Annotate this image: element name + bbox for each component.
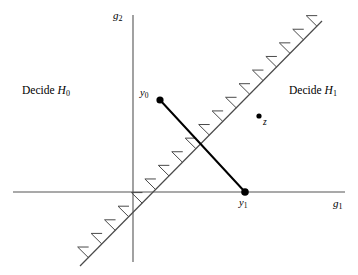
hatch-stroke <box>78 247 89 258</box>
hatch-stroke <box>293 29 304 40</box>
axes-group <box>13 15 345 262</box>
decide-h0-prefix: Decide <box>22 84 57 96</box>
decide-h0-subscript: 0 <box>66 89 70 98</box>
hatch-stroke <box>199 125 210 136</box>
hatch-stroke <box>118 206 129 217</box>
point-y0-subscript: 0 <box>145 91 149 100</box>
hatch-stroke <box>252 70 263 81</box>
hatch-stroke <box>172 152 183 163</box>
decision-boundary-group <box>78 16 322 266</box>
axis-g2-subscript: 2 <box>119 14 123 23</box>
hatch-stroke <box>306 16 317 27</box>
boundary-hatch-marks <box>78 16 318 258</box>
axis-g1-subscript: 1 <box>339 202 343 211</box>
signal-points-group <box>156 96 261 195</box>
signal-connector-group <box>160 100 245 192</box>
point-label-z: z <box>263 118 267 128</box>
hatch-stroke <box>266 56 277 67</box>
figure-canvas <box>0 0 358 275</box>
hatch-stroke <box>212 111 223 122</box>
point-label-y0: y0 <box>140 88 148 100</box>
axis-label-g2: g2 <box>113 10 123 23</box>
point-z-symbol: z <box>263 117 267 127</box>
region-label-decide-h0: Decide H0 <box>22 85 70 98</box>
data-point-y0 <box>156 96 163 103</box>
axis-label-g1: g1 <box>333 198 343 211</box>
hatch-stroke <box>279 43 290 54</box>
signal-connector-line <box>160 100 245 192</box>
hatch-stroke <box>185 138 196 149</box>
hatch-stroke <box>158 165 169 176</box>
figure-root: g2 g1 Decide H0 Decide H1 y0 y1 z <box>0 0 358 275</box>
region-label-decide-h1: Decide H1 <box>289 85 337 98</box>
decide-h1-prefix: Decide <box>289 84 324 96</box>
hatch-stroke <box>145 179 156 190</box>
point-y1-subscript: 1 <box>244 201 248 210</box>
point-label-y1: y1 <box>239 198 247 210</box>
hatch-stroke <box>91 233 102 244</box>
decide-h1-symbol: H <box>324 84 332 96</box>
hatch-stroke <box>226 97 237 108</box>
data-point-y1 <box>241 188 249 196</box>
hatch-stroke <box>105 220 116 231</box>
decide-h1-subscript: 1 <box>333 89 337 98</box>
hatch-stroke <box>239 84 250 95</box>
data-point-z <box>256 113 261 118</box>
decide-h0-symbol: H <box>57 84 65 96</box>
